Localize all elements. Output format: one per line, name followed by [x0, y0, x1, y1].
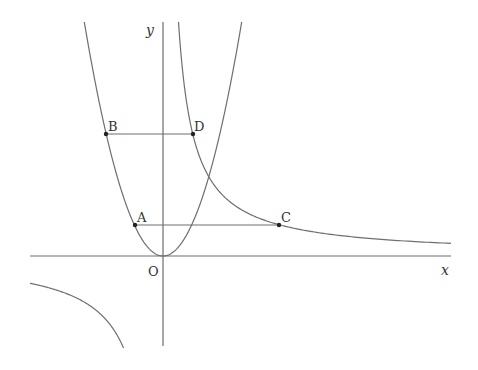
- point-a-label: A: [136, 210, 147, 225]
- x-axis-label: x: [441, 262, 449, 278]
- function-graph-diagram: y x O A B C D: [0, 0, 478, 370]
- y-axis-label: y: [145, 22, 155, 38]
- point-b-label: B: [108, 119, 118, 134]
- point-d-label: D: [194, 119, 204, 134]
- hyperbola-branch-third-quadrant: [30, 283, 124, 348]
- origin-label: O: [148, 264, 159, 279]
- hyperbola-branch-first-quadrant: [179, 22, 451, 243]
- point-c-label: C: [281, 210, 291, 225]
